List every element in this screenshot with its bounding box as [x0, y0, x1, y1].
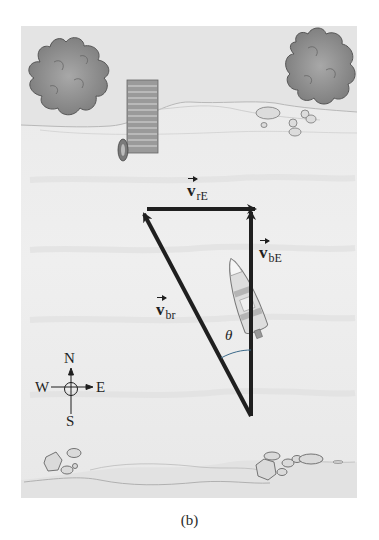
- vector-subscript: br: [166, 308, 176, 322]
- compass-west: W: [35, 379, 49, 396]
- vector-subscript: bE: [269, 251, 282, 265]
- label-v-br: vbr: [156, 300, 176, 320]
- vector-symbol: v: [187, 181, 196, 200]
- vector-symbol: v: [156, 300, 165, 319]
- compass-north: N: [64, 350, 75, 367]
- compass-south: S: [66, 413, 74, 430]
- figure-caption: (b): [0, 512, 379, 529]
- vector-symbol: v: [259, 243, 268, 262]
- label-v-rE: vrE: [187, 181, 208, 201]
- vector-subscript: rE: [197, 189, 208, 203]
- river-crossing-diagram: [0, 0, 379, 540]
- compass-east: E: [96, 379, 105, 396]
- angle-theta-label: θ: [225, 327, 232, 344]
- label-v-bE: vbE: [259, 243, 282, 263]
